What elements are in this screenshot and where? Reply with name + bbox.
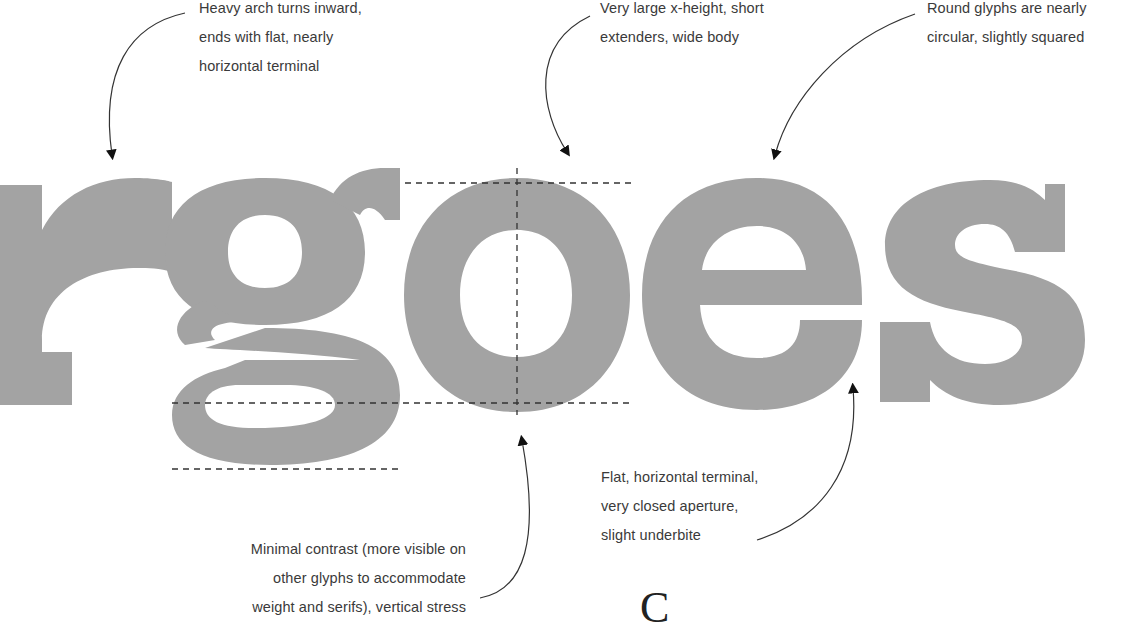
annotation-contrast: Minimal contrast (more visible on other … [150, 535, 466, 622]
annotation-line: other glyphs to accommodate [150, 564, 466, 593]
glyph-r [0, 178, 172, 405]
arrow-round [775, 14, 915, 155]
annotation-line: slight underbite [601, 521, 758, 550]
annotation-terminal: Flat, horizontal terminal, very closed a… [601, 463, 758, 550]
annotation-line: extenders, wide body [600, 23, 764, 52]
annotation-line: ends with flat, nearly [199, 23, 362, 52]
arrow-terminal [757, 388, 854, 540]
annotation-round: Round glyphs are nearly circular, slight… [927, 0, 1086, 52]
arrow-contrast [480, 440, 529, 598]
annotation-line: Minimal contrast (more visible on [150, 535, 466, 564]
annotation-line: Very large x-height, short [600, 0, 764, 23]
annotation-line: Flat, horizontal terminal, [601, 463, 758, 492]
arrow-xheight [546, 16, 590, 152]
annotation-arch: Heavy arch turns inward, ends with flat,… [199, 0, 362, 81]
arrow-arch [109, 13, 185, 155]
annotation-line: circular, slightly squared [927, 23, 1086, 52]
annotation-line: horizontal terminal [199, 52, 362, 81]
glyph-e [642, 178, 862, 410]
cropped-serif-letter: C [640, 586, 669, 626]
annotation-line: weight and serifs), vertical stress [150, 593, 466, 622]
glyph-s [880, 180, 1085, 405]
annotation-xheight: Very large x-height, short extenders, wi… [600, 0, 764, 52]
annotation-line: very closed aperture, [601, 492, 758, 521]
annotation-line: Heavy arch turns inward, [199, 0, 362, 23]
annotation-line: Round glyphs are nearly [927, 0, 1086, 23]
glyph-g [165, 168, 400, 465]
